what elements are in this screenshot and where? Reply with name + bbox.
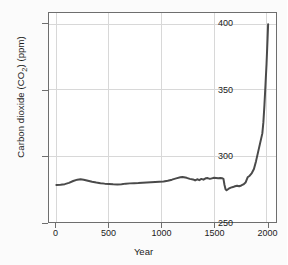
x-tick-label: 2000 bbox=[248, 228, 288, 238]
x-tick-label: 1500 bbox=[194, 228, 234, 238]
y-axis-title-tail: ) (ppm) bbox=[15, 36, 26, 67]
x-tick-label: 0 bbox=[35, 228, 75, 238]
plot-area bbox=[48, 12, 277, 223]
co2-concentration-chart: 250300350400 0500100015002000 Carbon dio… bbox=[0, 0, 287, 265]
y-tick-label: 400 bbox=[193, 18, 233, 28]
x-axis-title: Year bbox=[0, 246, 287, 257]
data-series-layer bbox=[49, 13, 276, 222]
y-tick-mark bbox=[42, 223, 48, 224]
y-tick-label: 350 bbox=[193, 85, 233, 95]
x-tick-label: 500 bbox=[88, 228, 128, 238]
y-tick-label: 250 bbox=[193, 218, 233, 228]
x-tick-label: 1000 bbox=[141, 228, 181, 238]
y-tick-mark bbox=[42, 156, 48, 157]
y-axis-title: Carbon dioxide (CO2) (ppm) bbox=[15, 0, 29, 197]
y-axis-title-subscript: 2 bbox=[20, 68, 29, 72]
y-tick-mark bbox=[42, 23, 48, 24]
y-tick-label: 300 bbox=[193, 151, 233, 161]
y-axis-title-base: Carbon dioxide (CO bbox=[15, 72, 26, 158]
y-tick-mark bbox=[42, 90, 48, 91]
co2-line-series bbox=[56, 24, 268, 190]
